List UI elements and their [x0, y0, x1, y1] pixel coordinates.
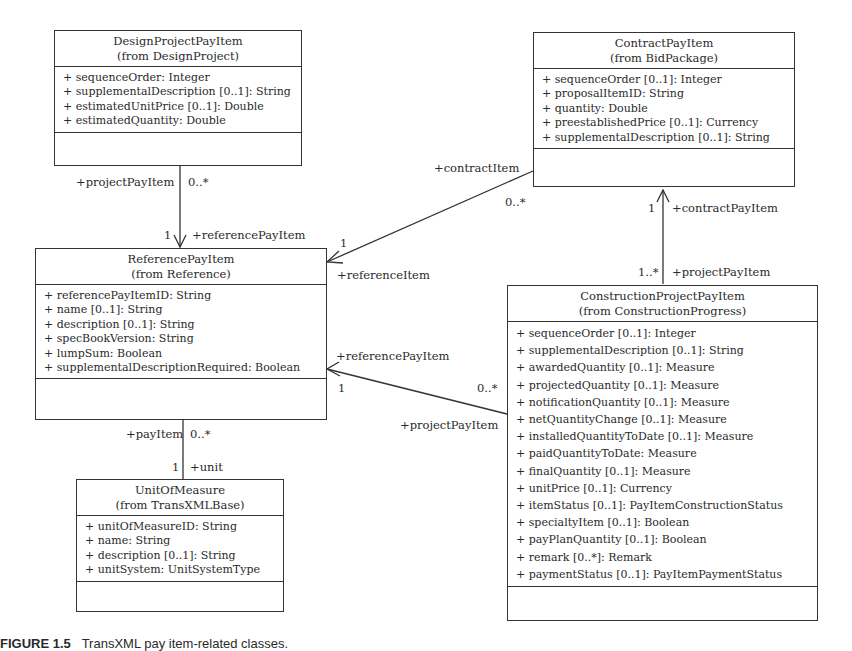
multiplicity-label: 1	[648, 202, 655, 215]
multiplicity-label: 0..*	[190, 428, 210, 441]
class-name: ConstructionProjectPayItem	[510, 289, 815, 304]
attribute: + paymentStatus [0..1]: PayItemPaymentSt…	[516, 566, 811, 583]
role-label: +projectPayItem	[400, 419, 498, 432]
class-design-project-pay-item: DesignProjectPayItem (from DesignProject…	[54, 30, 302, 166]
attribute: + preestablishedPrice [0..1]: Currency	[542, 116, 788, 130]
attribute: + description [0..1]: String	[85, 549, 277, 563]
attribute: + projectedQuantity [0..1]: Measure	[516, 377, 811, 394]
operation-list	[36, 379, 326, 393]
figure-caption: FIGURE 1.5 TransXML pay item-related cla…	[0, 636, 288, 651]
attribute: + supplementalDescription [0..1]: String	[63, 85, 295, 99]
role-label: +payItem	[126, 428, 183, 441]
attribute: + unitOfMeasureID: String	[85, 520, 277, 534]
attribute-list: + sequenceOrder [0..1]: Integer + propos…	[534, 69, 794, 149]
attribute-list: + unitOfMeasureID: String + name: String…	[77, 516, 283, 582]
class-package: (from Reference)	[38, 267, 324, 282]
class-name: DesignProjectPayItem	[57, 34, 299, 49]
attribute: + quantity: Double	[542, 102, 788, 116]
figure-caption-text: TransXML pay item-related classes.	[82, 636, 288, 651]
attribute: + proposalItemID: String	[542, 87, 788, 101]
class-header: ReferencePayItem (from Reference)	[36, 249, 326, 285]
attribute: + supplementalDescription [0..1]: String	[542, 131, 788, 145]
attribute: + payPlanQuantity [0..1]: Boolean	[516, 531, 811, 548]
attribute: + supplementalDescriptionRequired: Boole…	[44, 361, 320, 375]
attribute: + name [0..1]: String	[44, 303, 320, 317]
attribute-list: + sequenceOrder [0..1]: Integer + supple…	[508, 322, 817, 587]
figure-number: FIGURE 1.5	[0, 636, 71, 651]
association-contract-reference	[327, 171, 533, 262]
attribute: + unitPrice [0..1]: Currency	[516, 480, 811, 497]
attribute-list: + referencePayItemID: String + name [0..…	[36, 285, 326, 379]
attribute: + lumpSum: Boolean	[44, 347, 320, 361]
class-name: ReferencePayItem	[38, 252, 324, 267]
class-name: UnitOfMeasure	[79, 483, 281, 498]
attribute: + name: String	[85, 534, 277, 548]
attribute: + specBookVersion: String	[44, 332, 320, 346]
class-package: (from ConstructionProgress)	[510, 304, 815, 319]
class-reference-pay-item: ReferencePayItem (from Reference) + refe…	[35, 248, 327, 420]
operation-list	[508, 587, 817, 601]
operation-list	[77, 582, 283, 596]
multiplicity-label: 1	[338, 382, 345, 395]
multiplicity-label: 1	[164, 229, 171, 242]
class-header: UnitOfMeasure (from TransXMLBase)	[77, 480, 283, 516]
class-package: (from TransXMLBase)	[79, 498, 281, 513]
role-label: +projectPayItem	[76, 176, 174, 189]
role-label: +projectPayItem	[672, 266, 770, 279]
class-package: (from BidPackage)	[536, 51, 792, 66]
attribute: + finalQuantity [0..1]: Measure	[516, 463, 811, 480]
role-label: +referenceItem	[337, 269, 430, 282]
attribute: + referencePayItemID: String	[44, 289, 320, 303]
multiplicity-label: 1..*	[638, 266, 658, 279]
class-construction-project-pay-item: ConstructionProjectPayItem (from Constru…	[507, 285, 818, 621]
class-contract-pay-item: ContractPayItem (from BidPackage) + sequ…	[533, 32, 795, 187]
role-label: +referencePayItem	[336, 350, 449, 363]
class-package: (from DesignProject)	[57, 49, 299, 64]
class-header: ConstructionProjectPayItem (from Constru…	[508, 286, 817, 322]
class-header: DesignProjectPayItem (from DesignProject…	[55, 31, 301, 67]
attribute: + estimatedUnitPrice [0..1]: Double	[63, 100, 295, 114]
attribute: + awardedQuantity [0..1]: Measure	[516, 359, 811, 376]
multiplicity-label: 0..*	[477, 382, 497, 395]
attribute: + supplementalDescription [0..1]: String	[516, 342, 811, 359]
attribute: + sequenceOrder: Integer	[63, 71, 295, 85]
class-unit-of-measure: UnitOfMeasure (from TransXMLBase) + unit…	[76, 479, 284, 612]
attribute: + itemStatus [0..1]: PayItemConstruction…	[516, 497, 811, 514]
multiplicity-label: 0..*	[188, 176, 208, 189]
attribute: + estimatedQuantity: Double	[63, 114, 295, 128]
attribute: + netQuantityChange [0..1]: Measure	[516, 411, 811, 428]
multiplicity-label: 0..*	[505, 196, 525, 209]
operation-list	[55, 133, 301, 147]
role-label: +unit	[190, 461, 223, 474]
attribute: + remark [0..*]: Remark	[516, 549, 811, 566]
attribute-list: + sequenceOrder: Integer + supplementalD…	[55, 67, 301, 133]
attribute: + paidQuantityToDate: Measure	[516, 445, 811, 462]
class-header: ContractPayItem (from BidPackage)	[534, 33, 794, 69]
attribute: + unitSystem: UnitSystemType	[85, 563, 277, 577]
operation-list	[534, 149, 794, 163]
attribute: + installedQuantityToDate [0..1]: Measur…	[516, 428, 811, 445]
multiplicity-label: 1	[172, 461, 179, 474]
class-name: ContractPayItem	[536, 36, 792, 51]
attribute: + description [0..1]: String	[44, 318, 320, 332]
role-label: +contractPayItem	[672, 202, 778, 215]
role-label: +referencePayItem	[192, 229, 305, 242]
attribute: + sequenceOrder [0..1]: Integer	[542, 73, 788, 87]
attribute: + specialtyItem [0..1]: Boolean	[516, 514, 811, 531]
attribute: + notificationQuantity [0..1]: Measure	[516, 394, 811, 411]
multiplicity-label: 1	[340, 237, 347, 250]
attribute: + sequenceOrder [0..1]: Integer	[516, 325, 811, 342]
role-label: +contractItem	[434, 162, 519, 175]
